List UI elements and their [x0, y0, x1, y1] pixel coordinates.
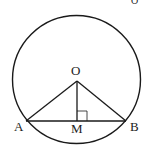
label-b: B — [130, 119, 139, 134]
corner-label: O — [131, 0, 138, 6]
label-a: A — [14, 119, 24, 134]
right-angle-marker — [77, 111, 87, 121]
label-m: M — [71, 121, 83, 136]
segment-ob — [77, 81, 126, 121]
segment-oa — [26, 81, 77, 121]
geometry-diagram: O A M B O — [0, 0, 156, 154]
label-o: O — [71, 63, 80, 78]
